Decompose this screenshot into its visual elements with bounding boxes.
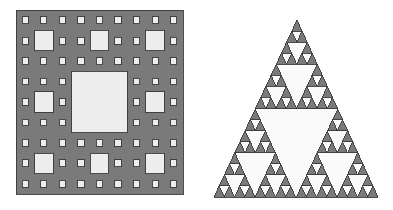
carpet-hole-level-3 [171, 17, 177, 24]
carpet-hole-level-3 [115, 37, 121, 44]
carpet-hole-level-3 [115, 160, 121, 167]
carpet-hole-level-3 [22, 58, 28, 65]
carpet-hole-level-3 [115, 58, 121, 65]
carpet-hole-level-2 [146, 30, 165, 50]
carpet-hole-level-3 [78, 180, 84, 187]
carpet-hole-level-3 [22, 180, 28, 187]
carpet-hole-level-3 [41, 17, 47, 24]
carpet-hole-level-3 [59, 99, 65, 106]
sierpinski-carpet-shape [16, 10, 183, 194]
carpet-hole-level-3 [171, 180, 177, 187]
carpet-hole-level-3 [59, 180, 65, 187]
sierpinski-triangle-figure [196, 0, 393, 210]
carpet-hole-level-2 [35, 153, 54, 173]
carpet-hole-level-3 [22, 37, 28, 44]
sierpinski-triangle-shape [214, 20, 378, 197]
carpet-hole-level-3 [22, 99, 28, 106]
carpet-hole-level-3 [115, 139, 121, 146]
carpet-hole-level-3 [41, 180, 47, 187]
carpet-hole-level-3 [134, 37, 140, 44]
carpet-hole-level-3 [59, 139, 65, 146]
carpet-hole-level-3 [96, 139, 102, 146]
carpet-hole-level-3 [59, 160, 65, 167]
carpet-hole-level-3 [152, 180, 158, 187]
carpet-hole-level-2 [90, 153, 109, 173]
carpet-hole-level-3 [41, 78, 47, 85]
carpet-hole-level-2 [146, 153, 165, 173]
carpet-hole-level-3 [22, 160, 28, 167]
carpet-hole-level-3 [134, 99, 140, 106]
carpet-hole-level-3 [134, 119, 140, 126]
carpet-hole-level-2 [90, 30, 109, 50]
carpet-hole-level-3 [22, 17, 28, 24]
carpet-hole-level-3 [41, 139, 47, 146]
carpet-hole-level-3 [134, 78, 140, 85]
carpet-hole-level-3 [78, 37, 84, 44]
carpet-hole-level-1 [72, 71, 128, 132]
carpet-hole-level-3 [41, 58, 47, 65]
carpet-hole-level-3 [96, 58, 102, 65]
carpet-hole-level-3 [59, 37, 65, 44]
carpet-hole-level-3 [22, 78, 28, 85]
carpet-hole-level-3 [134, 180, 140, 187]
carpet-hole-level-3 [134, 58, 140, 65]
carpet-hole-level-3 [134, 139, 140, 146]
carpet-hole-level-3 [134, 17, 140, 24]
carpet-hole-level-3 [59, 78, 65, 85]
carpet-hole-level-3 [22, 119, 28, 126]
carpet-hole-level-3 [171, 78, 177, 85]
carpet-hole-level-3 [22, 139, 28, 146]
carpet-hole-level-3 [115, 180, 121, 187]
sierpinski-carpet-figure [0, 0, 196, 210]
figure-canvas [0, 0, 393, 210]
carpet-hole-level-3 [152, 58, 158, 65]
carpet-hole-level-3 [152, 17, 158, 24]
carpet-hole-level-3 [171, 160, 177, 167]
carpet-hole-level-3 [59, 17, 65, 24]
carpet-hole-level-2 [35, 92, 54, 112]
carpet-hole-level-3 [152, 139, 158, 146]
carpet-hole-level-3 [78, 160, 84, 167]
carpet-hole-level-3 [78, 17, 84, 24]
carpet-hole-level-3 [152, 78, 158, 85]
carpet-hole-level-3 [171, 37, 177, 44]
carpet-hole-level-3 [171, 99, 177, 106]
carpet-hole-level-3 [171, 58, 177, 65]
carpet-hole-level-3 [59, 58, 65, 65]
carpet-hole-level-3 [96, 180, 102, 187]
carpet-hole-level-3 [41, 119, 47, 126]
carpet-hole-level-3 [152, 119, 158, 126]
carpet-hole-level-3 [59, 119, 65, 126]
carpet-hole-level-3 [171, 119, 177, 126]
carpet-hole-level-3 [134, 160, 140, 167]
carpet-hole-level-3 [78, 139, 84, 146]
carpet-hole-level-3 [96, 17, 102, 24]
carpet-hole-level-3 [115, 17, 121, 24]
carpet-hole-level-2 [146, 92, 165, 112]
carpet-hole-level-2 [35, 30, 54, 50]
carpet-hole-level-3 [171, 139, 177, 146]
carpet-hole-level-3 [78, 58, 84, 65]
